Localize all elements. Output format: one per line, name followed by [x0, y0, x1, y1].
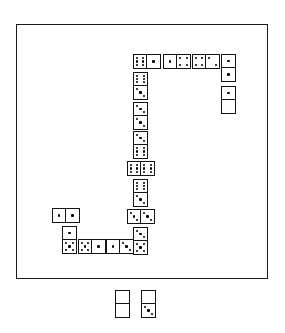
pip-dot-icon — [144, 306, 146, 308]
pip-dot-icon — [136, 88, 138, 90]
tile-half-a — [116, 291, 129, 304]
pip-dot-icon — [195, 57, 197, 59]
pip-group-3 — [121, 241, 132, 252]
pip-group-1 — [223, 69, 234, 80]
pip-dot-icon — [143, 212, 145, 214]
pip-dot-icon — [136, 243, 138, 245]
tile-half-a — [63, 227, 76, 240]
dominoes-board[interactable] — [16, 24, 268, 279]
tile-half-b — [141, 162, 154, 175]
tile-half-b — [116, 304, 129, 317]
pip-dot-icon — [139, 198, 141, 200]
pip-dot-icon — [129, 249, 131, 251]
pip-group-0 — [223, 101, 234, 112]
pip-group-3 — [135, 104, 146, 114]
pip-group-3 — [142, 211, 153, 222]
tile-6-1[interactable] — [133, 54, 161, 69]
pip-dot-icon — [227, 92, 229, 94]
tile-1-3[interactable] — [106, 239, 134, 254]
pip-dot-icon — [150, 171, 152, 173]
pip-dot-icon — [81, 249, 83, 251]
hand-tile-0-0[interactable] — [115, 290, 130, 318]
pip-dot-icon — [143, 95, 145, 97]
pip-dot-icon — [143, 167, 145, 169]
pip-dot-icon — [136, 250, 138, 252]
pip-group-1 — [165, 56, 175, 67]
pip-dot-icon — [133, 215, 135, 217]
pip-dot-icon — [136, 147, 138, 149]
tile-half-a — [134, 180, 147, 193]
pip-dot-icon — [143, 147, 145, 149]
tile-half-a — [134, 73, 147, 86]
tile-half-b — [63, 240, 76, 253]
tile-half-a — [222, 87, 235, 100]
tile-half-b — [134, 241, 147, 254]
pip-dot-icon — [139, 121, 141, 123]
pip-group-0 — [117, 292, 128, 302]
pip-dot-icon — [143, 140, 145, 142]
pip-dot-icon — [143, 125, 145, 127]
tile-half-a — [53, 209, 66, 222]
tile-1-5[interactable] — [62, 226, 77, 254]
tile-1-1-right[interactable] — [221, 54, 236, 82]
pip-dot-icon — [65, 249, 67, 251]
tile-half-a — [134, 132, 147, 145]
pip-dot-icon — [87, 249, 89, 251]
pip-dot-icon — [227, 60, 229, 62]
pip-dot-icon — [136, 188, 138, 190]
pip-dot-icon — [81, 242, 83, 244]
pip-dot-icon — [125, 245, 127, 247]
pip-dot-icon — [139, 246, 141, 248]
pip-group-1 — [223, 88, 234, 98]
pip-group-1 — [93, 241, 104, 252]
pip-dot-icon — [227, 73, 229, 75]
pip-group-3 — [135, 87, 146, 98]
pip-group-3 — [143, 305, 154, 316]
pip-dot-icon — [87, 242, 89, 244]
pip-dot-icon — [146, 215, 148, 217]
pip-group-1 — [148, 56, 159, 67]
pip-dot-icon — [150, 167, 152, 169]
pip-dot-icon — [130, 171, 132, 173]
tile-6-6[interactable] — [127, 161, 155, 176]
pip-dot-icon — [130, 212, 132, 214]
tile-1-4[interactable] — [163, 54, 191, 69]
tile-half-a — [134, 55, 147, 68]
pip-dot-icon — [150, 219, 152, 221]
tile-6-3-lower[interactable] — [133, 179, 148, 207]
pip-dot-icon — [130, 167, 132, 169]
player-hand[interactable] — [0, 288, 285, 330]
pip-dot-icon — [139, 91, 141, 93]
tile-3-3-lower[interactable] — [127, 209, 155, 224]
tile-6-3-upper[interactable] — [133, 72, 148, 100]
pip-dot-icon — [71, 214, 73, 216]
pip-group-6 — [135, 56, 145, 67]
tile-4-2[interactable] — [192, 54, 220, 69]
tile-half-b — [66, 209, 79, 222]
pip-dot-icon — [143, 182, 145, 184]
pip-group-3 — [135, 229, 146, 239]
pip-dot-icon — [179, 64, 181, 66]
tile-3-5[interactable] — [133, 227, 148, 255]
pip-group-1 — [64, 228, 75, 238]
pip-dot-icon — [112, 245, 114, 247]
tile-5-1[interactable] — [78, 239, 106, 254]
pip-group-6 — [142, 163, 153, 174]
pip-dot-icon — [136, 60, 138, 62]
tile-1-0-right[interactable] — [221, 86, 236, 114]
pip-dot-icon — [136, 64, 138, 66]
pip-dot-icon — [215, 64, 217, 66]
pip-group-3 — [135, 133, 146, 143]
pip-dot-icon — [169, 60, 171, 62]
pip-dot-icon — [142, 57, 144, 59]
tile-1-1-left[interactable] — [52, 208, 80, 223]
hand-tile-0-3[interactable] — [141, 290, 156, 318]
pip-dot-icon — [136, 57, 138, 59]
pip-group-0 — [143, 292, 154, 302]
pip-group-4 — [194, 56, 204, 67]
pip-dot-icon — [84, 245, 86, 247]
pip-dot-icon — [143, 185, 145, 187]
tile-3-6[interactable] — [133, 131, 148, 159]
pip-dot-icon — [130, 164, 132, 166]
tile-3-3-upper[interactable] — [133, 102, 148, 130]
